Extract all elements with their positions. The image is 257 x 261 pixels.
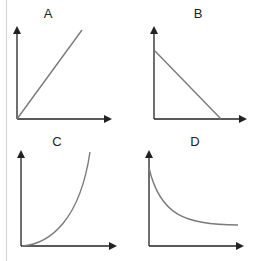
panel-b: B — [154, 6, 245, 119]
decreasing-line — [155, 51, 221, 119]
decay-curve — [149, 168, 238, 225]
panel-c: C — [21, 134, 115, 246]
panel-a-label: A — [44, 6, 53, 21]
increasing-curve — [22, 152, 90, 246]
panel-a: A — [17, 6, 110, 119]
panel-d-label: D — [190, 134, 199, 149]
graphs-diagram: A B C D — [0, 0, 257, 261]
panel-b-label: B — [194, 6, 203, 21]
panel-c-label: C — [52, 134, 61, 149]
proportional-line — [17, 30, 82, 119]
panel-d: D — [149, 134, 242, 246]
